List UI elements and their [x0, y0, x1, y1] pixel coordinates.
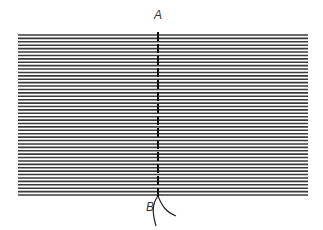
- curved-tail: [153, 196, 176, 226]
- horizontal-lines: [18, 35, 308, 195]
- parallel-lines-diagram: [0, 0, 323, 230]
